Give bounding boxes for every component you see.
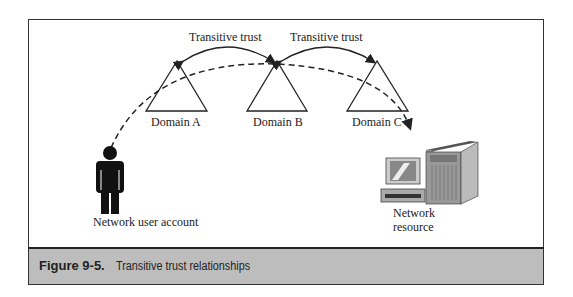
- domain-c-triangle: [347, 61, 408, 111]
- figure-caption-bar: Figure 9-5. Transitive trust relationshi…: [28, 247, 544, 285]
- trust-label-ab: Transitive trust: [189, 30, 262, 45]
- domain-c-label: Domain C: [352, 115, 402, 130]
- trust-label-bc: Transitive trust: [290, 30, 363, 45]
- access-path: [111, 64, 410, 148]
- domain-a-triangle: [146, 61, 207, 111]
- resource-label-line2: resource: [393, 220, 434, 235]
- user-label: Network user account: [93, 215, 198, 230]
- figure-number: Figure 9-5.: [39, 258, 105, 273]
- figure-caption: Transitive trust relationships: [116, 259, 250, 273]
- trust-arc-bc: [280, 47, 374, 62]
- user-icon: [96, 146, 124, 214]
- trust-arc-ab: [182, 47, 274, 62]
- resource-label-line1: Network: [393, 206, 435, 221]
- domain-b-triangle: [247, 61, 307, 111]
- domain-b-label: Domain B: [253, 115, 303, 130]
- domain-a-label: Domain A: [151, 115, 201, 130]
- network-resource-icon: [381, 141, 478, 204]
